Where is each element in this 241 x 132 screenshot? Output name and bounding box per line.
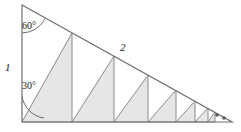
inner-triangle-5 xyxy=(176,101,195,122)
ellipsis-dot-1 xyxy=(215,113,219,117)
ellipsis-dot-2 xyxy=(222,116,226,120)
inner-triangle-7 xyxy=(208,112,215,122)
inner-triangle-4 xyxy=(148,90,176,122)
label-hypotenuse: 2 xyxy=(120,42,126,53)
inner-triangle-3 xyxy=(114,75,148,122)
inner-triangle-group xyxy=(22,33,215,122)
figure-canvas xyxy=(0,0,241,132)
inner-triangle-1 xyxy=(22,33,72,122)
ellipsis-dots xyxy=(215,113,226,120)
label-angle-top: 60° xyxy=(22,21,36,31)
geometry-figure: 1 2 60° 30° xyxy=(0,0,241,132)
inner-triangle-2 xyxy=(72,56,114,122)
inner-triangle-6 xyxy=(195,108,208,122)
label-vertical-leg: 1 xyxy=(5,62,11,73)
label-angle-bottom: 30° xyxy=(22,81,36,91)
